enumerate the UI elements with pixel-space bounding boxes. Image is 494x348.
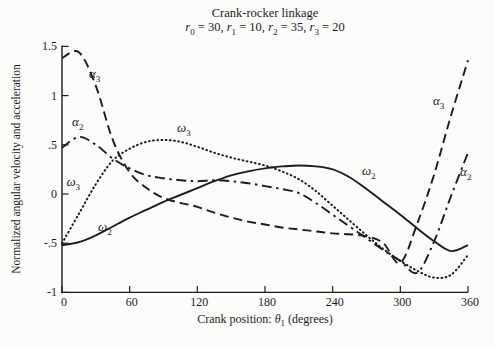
x-tick-label: 0 <box>61 295 67 309</box>
x-tick-label: 300 <box>393 295 411 309</box>
curve-alpha3 <box>62 51 468 263</box>
x-tick-label: 360 <box>461 295 479 309</box>
y-tick-label: -.5 <box>44 236 57 250</box>
curve-omega2 <box>62 166 468 252</box>
y-tick-label: 1.5 <box>42 39 57 53</box>
y-tick-label: 1 <box>51 89 57 103</box>
y-tick-label: .5 <box>48 138 57 152</box>
curve-alpha2 <box>62 137 468 273</box>
y-tick-label: -1 <box>47 285 57 299</box>
figure-container: Crank-rocker linkage r0 = 30, r1 = 10, r… <box>0 0 494 348</box>
y-tick-label: 0 <box>51 187 57 201</box>
x-tick-label: 60 <box>126 295 138 309</box>
x-axis-title: Crank position: θ1 (degrees) <box>62 312 468 327</box>
plot-svg: 1.51.50-.5-1060120180240300360 <box>0 0 494 348</box>
x-tick-label: 180 <box>258 295 276 309</box>
x-tick-label: 120 <box>190 295 208 309</box>
curve-omega3 <box>62 140 468 278</box>
x-tick-label: 240 <box>326 295 344 309</box>
